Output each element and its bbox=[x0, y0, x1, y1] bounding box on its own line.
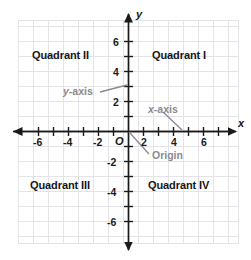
y-tick-label-neg4: -4 bbox=[107, 187, 116, 198]
x-tick-label-6: 6 bbox=[201, 137, 207, 148]
x-tick-label-2: 2 bbox=[141, 137, 147, 148]
quadrant-label-1: Quadrant I bbox=[152, 50, 206, 61]
coordinate-plane-figure: Quadrant II Quadrant I Quadrant III Quad… bbox=[0, 0, 251, 260]
x-tick-label-4: 4 bbox=[171, 137, 177, 148]
origin-callout-label: Origin bbox=[152, 150, 183, 161]
x-tick-label-neg4: -4 bbox=[63, 137, 72, 148]
quadrant-label-3: Quadrant III bbox=[30, 180, 90, 191]
x-axis-name-label: x bbox=[238, 118, 244, 129]
x-tick-label-neg6: -6 bbox=[33, 137, 42, 148]
quadrant-label-2: Quadrant II bbox=[32, 50, 89, 61]
y-tick-label-neg2: -2 bbox=[107, 157, 116, 168]
x-axis-callout-rest: -axis bbox=[154, 103, 178, 115]
y-axis-callout-rest: -axis bbox=[69, 85, 93, 97]
quadrant-label-4: Quadrant IV bbox=[148, 180, 209, 191]
y-tick-label-4: 4 bbox=[113, 67, 119, 78]
y-axis-name-label: y bbox=[136, 9, 142, 20]
y-tick-label-neg6: -6 bbox=[107, 217, 116, 228]
origin-tick-label: O bbox=[115, 136, 124, 147]
y-tick-label-2: 2 bbox=[113, 97, 119, 108]
x-axis-callout-label: x-axis bbox=[148, 104, 178, 115]
coordinate-plane-canvas bbox=[0, 0, 251, 260]
y-tick-label-6: 6 bbox=[113, 37, 119, 48]
x-tick-label-neg2: -2 bbox=[93, 137, 102, 148]
y-axis-callout-label: y-axis bbox=[63, 86, 93, 97]
